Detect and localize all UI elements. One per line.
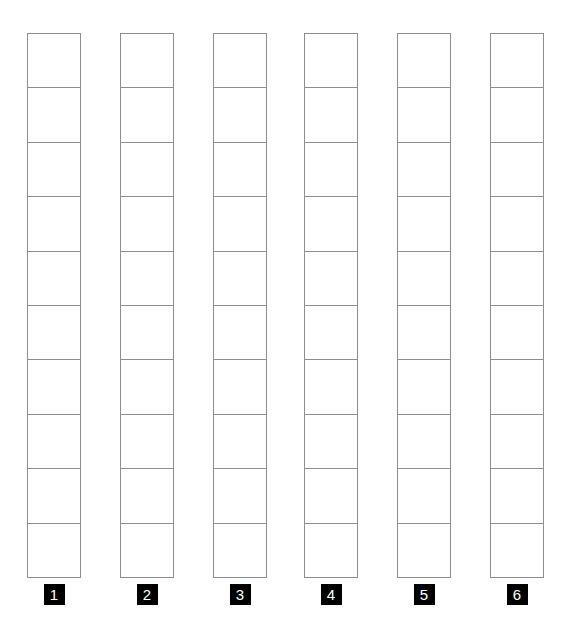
grid-cell — [214, 252, 266, 306]
grid-cell — [491, 469, 543, 523]
grid-cell — [28, 252, 80, 306]
grid-cell — [398, 524, 450, 577]
grid-cell — [28, 306, 80, 360]
grid-cell — [214, 360, 266, 414]
grid-cell — [305, 34, 357, 88]
worksheet-page: 123456 — [0, 0, 573, 635]
grid-cell — [214, 469, 266, 523]
grid-cell — [121, 306, 173, 360]
grid-cell — [121, 34, 173, 88]
grid-cell — [28, 143, 80, 197]
grid-cell — [214, 524, 266, 577]
grid-cell — [398, 252, 450, 306]
grid-cell — [28, 197, 80, 251]
grid-cell — [398, 360, 450, 414]
grid-cell — [305, 143, 357, 197]
grid-cell — [305, 306, 357, 360]
grid-cell — [398, 306, 450, 360]
grid-cell — [28, 524, 80, 577]
grid-cell — [121, 197, 173, 251]
grid-cell — [28, 34, 80, 88]
grid-cell — [491, 143, 543, 197]
cell-stack — [490, 33, 544, 578]
column-1: 1 — [27, 33, 81, 605]
column-2: 2 — [120, 33, 174, 605]
grid-cell — [491, 252, 543, 306]
grid-cell — [121, 415, 173, 469]
grid-cell — [305, 469, 357, 523]
grid-cell — [305, 88, 357, 142]
grid-cell — [214, 143, 266, 197]
grid-cell — [305, 415, 357, 469]
grid-cell — [305, 197, 357, 251]
cell-stack — [304, 33, 358, 578]
grid-cell — [491, 360, 543, 414]
column-number-label: 5 — [414, 584, 435, 605]
column-number-label: 6 — [507, 584, 528, 605]
grid-cell — [214, 88, 266, 142]
grid-cell — [305, 524, 357, 577]
grid-cell — [398, 88, 450, 142]
grid-cell — [398, 34, 450, 88]
grid-cell — [214, 415, 266, 469]
grid-cell — [28, 469, 80, 523]
column-5: 5 — [397, 33, 451, 605]
column-4: 4 — [304, 33, 358, 605]
grid-cell — [121, 469, 173, 523]
grid-cell — [398, 469, 450, 523]
grid-cell — [491, 306, 543, 360]
column-number-label: 1 — [44, 584, 65, 605]
grid-cell — [491, 88, 543, 142]
grid-cell — [121, 252, 173, 306]
grid-cell — [28, 88, 80, 142]
cell-stack — [120, 33, 174, 578]
grid-cell — [121, 143, 173, 197]
grid-cell — [398, 415, 450, 469]
grid-cell — [491, 197, 543, 251]
column-number-label: 3 — [230, 584, 251, 605]
cell-stack — [27, 33, 81, 578]
grid-cell — [214, 306, 266, 360]
grid-cell — [491, 34, 543, 88]
grid-cell — [305, 360, 357, 414]
grid-cell — [121, 360, 173, 414]
grid-cell — [214, 34, 266, 88]
cell-stack — [213, 33, 267, 578]
grid-cell — [121, 88, 173, 142]
cell-stack — [397, 33, 451, 578]
grid-cell — [491, 415, 543, 469]
grid-cell — [305, 252, 357, 306]
grid-cell — [214, 197, 266, 251]
column-number-label: 4 — [321, 584, 342, 605]
column-number-label: 2 — [137, 584, 158, 605]
grid-cell — [398, 197, 450, 251]
grid-cell — [28, 360, 80, 414]
column-6: 6 — [490, 33, 544, 605]
grid-cell — [398, 143, 450, 197]
grid-cell — [121, 524, 173, 577]
grid-cell — [491, 524, 543, 577]
column-3: 3 — [213, 33, 267, 605]
grid-cell — [28, 415, 80, 469]
